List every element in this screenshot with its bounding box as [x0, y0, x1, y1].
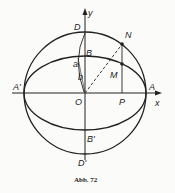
label-b: b: [78, 72, 83, 82]
label-M: M: [110, 70, 118, 80]
point-M: [120, 62, 124, 66]
point-N: [120, 42, 124, 46]
label-a: a: [73, 59, 78, 69]
label-x: x: [154, 98, 160, 108]
label-A: A: [148, 82, 155, 92]
label-D-prime: D': [78, 158, 86, 168]
y-axis-arrow-icon: [83, 8, 88, 15]
construction-arc: [78, 33, 85, 92]
figure-caption: Abb. 72: [74, 176, 98, 184]
x-axis-arrow-icon: [155, 91, 162, 96]
label-P: P: [119, 97, 125, 107]
label-A-prime: A': [12, 82, 21, 92]
label-y: y: [87, 8, 93, 18]
ellipse-construction-diagram: y x D N B a b M A' A O P B' D' Abb. 72: [0, 0, 175, 193]
label-O: O: [75, 97, 82, 107]
label-N: N: [125, 30, 132, 40]
label-B: B: [86, 48, 92, 58]
label-D: D: [74, 22, 81, 32]
label-B-prime: B': [87, 134, 95, 144]
